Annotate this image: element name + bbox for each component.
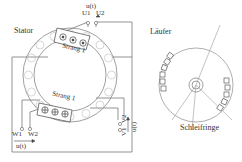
rotor (159, 25, 233, 130)
rotor-label: Läufer (150, 28, 171, 36)
w2-label: W2 (28, 131, 38, 138)
u2-label: U2 (96, 10, 105, 17)
v-voltage-label: u(t) (131, 122, 138, 132)
slip-rings-label: Schleifringe (180, 124, 219, 132)
u1-label: U1 (82, 10, 91, 17)
v1-label: V1 (121, 127, 128, 136)
stator-label: Stator (14, 27, 33, 35)
w1-label: W1 (12, 131, 22, 138)
v2-label: V2 (121, 114, 128, 123)
w-voltage-label: u(t) (16, 143, 26, 150)
